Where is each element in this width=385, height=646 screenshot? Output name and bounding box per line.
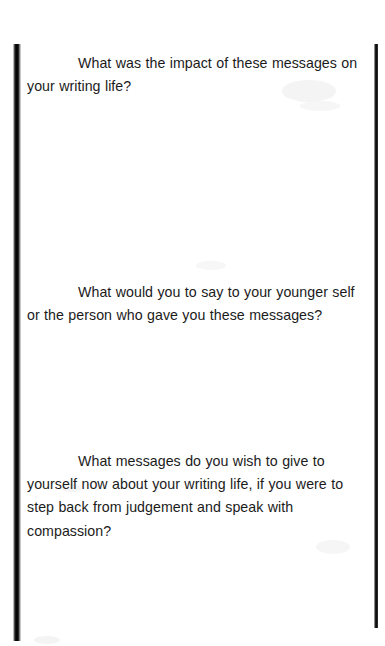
scanned-page: What was the impact of these messages on… (0, 0, 385, 646)
scan-edge-bar-left (13, 44, 21, 641)
answer-space (27, 100, 361, 278)
scan-edge-bar-right (374, 44, 378, 628)
prompt-question: What was the impact of these messages on… (27, 52, 361, 98)
prompt-question: What messages do you wish to give to you… (27, 450, 361, 543)
answer-space (27, 544, 361, 640)
prompt-question: What would you to say to your younger se… (27, 281, 361, 327)
answer-space (27, 329, 361, 447)
